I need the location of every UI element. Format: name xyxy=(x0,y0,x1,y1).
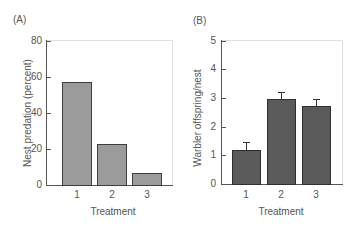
y-tick xyxy=(47,113,51,114)
y-axis xyxy=(221,40,222,185)
y-tick xyxy=(47,77,51,78)
x-tick-label: 2 xyxy=(102,190,122,200)
y-tick xyxy=(222,127,226,128)
x-tick-label: 3 xyxy=(306,190,326,200)
y-tick xyxy=(222,98,226,99)
x-axis-title: Treatment xyxy=(231,206,331,217)
x-tick-label: 2 xyxy=(271,190,291,200)
y-tick xyxy=(47,149,51,150)
plot-frame-right xyxy=(342,40,343,184)
error-cap xyxy=(313,99,320,100)
bar xyxy=(132,173,162,186)
x-axis-title: Treatment xyxy=(63,206,163,217)
x-tick-label: 1 xyxy=(67,190,87,200)
y-tick xyxy=(47,41,51,42)
panel-label-a: (A) xyxy=(13,14,26,25)
plot-frame-top xyxy=(221,40,343,41)
y-axis-title: Warbler offspring/nest xyxy=(192,53,204,183)
bar xyxy=(232,150,261,185)
plot-frame-top xyxy=(46,40,173,41)
bar xyxy=(62,82,92,186)
y-axis-title: Nest predation (percent) xyxy=(22,43,34,183)
y-tick-label: 5 xyxy=(196,36,216,46)
y-tick xyxy=(222,155,226,156)
x-tick-label: 3 xyxy=(137,190,157,200)
x-tick-label: 1 xyxy=(236,190,256,200)
y-tick xyxy=(222,69,226,70)
error-cap xyxy=(278,92,285,93)
panel-label-b: (B) xyxy=(193,15,206,26)
error-bar xyxy=(281,92,282,99)
bar xyxy=(302,106,331,185)
y-tick xyxy=(222,41,226,42)
error-bar xyxy=(316,99,317,106)
bar xyxy=(97,144,127,186)
plot-frame-right xyxy=(172,40,173,185)
bar xyxy=(267,99,296,185)
error-bar xyxy=(246,142,247,150)
error-cap xyxy=(243,142,250,143)
